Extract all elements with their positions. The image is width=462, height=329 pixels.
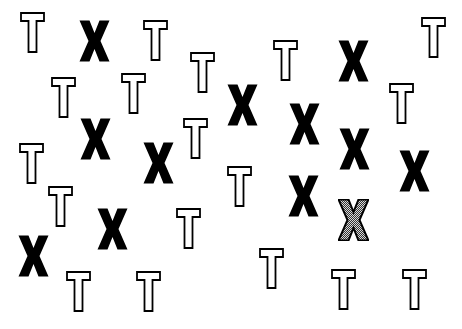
letter-t-outline (227, 166, 252, 207)
letter-t-outline (183, 118, 208, 159)
letter-x-solid (338, 40, 369, 82)
letter-x-solid (18, 235, 49, 277)
letter-t-outline (190, 52, 215, 93)
visual-search-canvas (0, 0, 462, 329)
letter-t-outline (19, 143, 44, 184)
letter-t-outline (389, 83, 414, 124)
letter-t-outline (176, 208, 201, 249)
letter-t-outline (421, 17, 446, 58)
letter-t-outline (259, 248, 284, 289)
letter-t-outline (51, 77, 76, 118)
letter-t-outline (331, 269, 356, 310)
letter-t-outline (48, 186, 73, 227)
letter-t-outline (273, 40, 298, 81)
letter-t-outline (20, 12, 45, 53)
letter-x-solid (339, 128, 370, 170)
letter-x-solid (80, 118, 111, 160)
letter-t-outline (143, 20, 168, 61)
letter-x-solid (79, 20, 110, 62)
letter-x-solid (143, 142, 174, 184)
letter-t-outline (121, 73, 146, 114)
letter-t-outline (402, 269, 427, 310)
letter-x-solid (227, 84, 258, 126)
letter-x-solid (289, 103, 320, 145)
letter-x-solid (97, 208, 128, 250)
letter-t-outline (136, 271, 161, 312)
target-letter-x-hatched (338, 199, 369, 241)
letter-x-solid (288, 175, 319, 217)
letter-x-solid (399, 150, 430, 192)
letter-t-outline (66, 271, 91, 312)
